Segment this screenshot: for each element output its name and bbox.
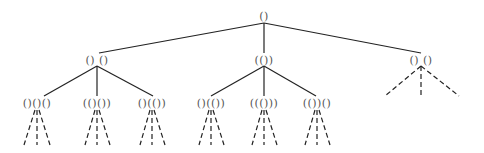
- leaf-node-2: ()(()): [138, 98, 167, 109]
- edge-root-left: [99, 23, 264, 53]
- dashed-right-3: [421, 66, 459, 96]
- level2-node-right: () (): [409, 55, 432, 66]
- edge-middle-3: [264, 66, 316, 96]
- dashed-leaf-1: [85, 110, 110, 145]
- leaf-node-4: ((())): [250, 98, 279, 109]
- leaf-node-3: ()(()): [197, 98, 226, 109]
- dashed-leaf-4: [252, 110, 277, 145]
- dashed-leaf-2: [140, 110, 165, 145]
- dashed-leaf-5: [305, 110, 330, 145]
- dashed-leaf-0: [24, 110, 50, 145]
- leaf-node-5: (())(): [303, 98, 332, 109]
- level2-node-middle: (()): [254, 55, 273, 66]
- dashed-leaf-3: [199, 110, 224, 145]
- leaf-node-0: ()()(): [23, 98, 52, 109]
- leaf-node-1: (()()): [83, 98, 112, 109]
- level2-node-left: () (): [85, 55, 108, 66]
- edge-root-right: [264, 23, 421, 53]
- edge-left-1: [44, 66, 97, 96]
- edge-left-3: [97, 66, 153, 96]
- dashed-right-1: [385, 66, 421, 96]
- root-node-label: (): [259, 11, 269, 22]
- edge-middle-1: [211, 66, 264, 96]
- tree-edges: [0, 0, 484, 153]
- tree-diagram: () () () (()) () () ()()() (()()) ()(())…: [0, 0, 484, 153]
